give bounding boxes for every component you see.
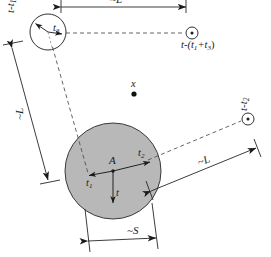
label-disk-left-time: t1	[86, 178, 92, 190]
right-dimension-group	[146, 139, 261, 200]
label-small-circle-time-sub: 3	[56, 27, 60, 35]
label-disk-center: A	[109, 155, 116, 166]
label-top-dimension: ~L	[110, 0, 122, 5]
label-far-right-prefix: t-(t	[181, 39, 194, 50]
label-far-right-marker: t-(t1+t3)	[181, 40, 214, 52]
point-x-dot	[131, 91, 136, 96]
marker-right-group	[242, 113, 254, 125]
label-disk-left-time-sub: 1	[89, 182, 93, 190]
marker-upper-right-dot	[191, 32, 194, 35]
marker-upper-right-group	[186, 27, 198, 39]
label-far-right-mid: +t	[197, 39, 207, 50]
bottom-dimension-tick-right	[152, 203, 158, 249]
label-point-x: x	[131, 79, 136, 90]
label-right-marker-sub: 2	[242, 97, 251, 101]
left-dimension-tick-bottom	[40, 180, 60, 184]
label-upper-left-marker-text: t-t	[4, 3, 16, 13]
label-left-dimension: ~L	[14, 108, 25, 120]
label-disk-bottom-time: t	[116, 188, 119, 199]
label-far-right-suffix: )	[211, 39, 215, 50]
label-upper-left-marker: t-t1	[5, 0, 18, 13]
label-right-marker-text: t-t	[237, 101, 249, 111]
diagram-canvas	[0, 0, 271, 257]
label-disk-right-time-sub: 2	[141, 152, 145, 160]
marker-right-dot	[247, 118, 250, 121]
bottom-dimension-line	[88, 238, 156, 241]
dashed-line-disk-to-right-marker	[148, 121, 241, 160]
left-dimension-group	[3, 41, 60, 184]
label-small-circle-time: t3	[53, 23, 59, 35]
label-disk-right-time: t2	[138, 148, 144, 160]
label-bottom-dimension: ~S	[127, 225, 138, 236]
top-dimension-group	[61, 0, 186, 13]
left-dimension-tick-top	[3, 41, 23, 45]
label-right-marker: t-t2	[238, 97, 251, 111]
label-upper-left-marker-sub: 1	[9, 0, 18, 3]
bottom-dimension-tick-left	[85, 209, 90, 252]
small-circle-group	[30, 14, 66, 50]
technical-figure: ~L t-t1 t3 t-(t1+t3) t-t2 x A t1 t2 t ~L…	[0, 0, 271, 257]
